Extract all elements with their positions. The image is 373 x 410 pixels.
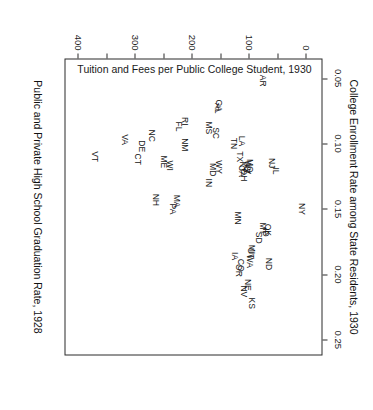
scatter-point-label: DE [137,140,146,152]
rotated-figure-stage: College Enrollment Rate among State Resi… [0,0,373,410]
scatter-point-label: NC [147,129,156,141]
scatter-point-label: AR [257,74,266,86]
scatter-point-label: NJ [267,157,276,167]
scatter-point-label: VA [120,134,129,145]
scatter-point-label: MS [203,121,212,134]
scatter-point-label: TX [235,151,244,162]
y-tick-label: 400 [73,30,84,50]
plot-panel [64,58,322,355]
x-tick-label: 0.05 [332,68,343,87]
scatter-point-label: CA [236,165,245,177]
y-tick-mark [77,53,78,58]
scatter-point-label: NV [239,285,248,297]
x-axis-title: Public and Private High School Graduatio… [31,58,43,355]
y-tick-mark [248,53,249,58]
scatter-point-label: IA [229,252,238,260]
scatter-point-label: ME [158,155,167,168]
x-tick-mark [322,339,327,340]
scatter-point-label: IN [203,178,212,187]
y-tick-mark [163,53,164,58]
scatter-point-label: SD [254,231,263,243]
y-tick-mark [134,53,135,58]
scatter-point-label: FL [174,121,183,131]
y-axis-title: Tuition and Fees per Public College Stud… [65,62,323,74]
scatter-point-label: VT [90,151,99,162]
scatter-point-label: AL [212,103,221,113]
x-tick-mark [322,274,327,275]
scatter-point-label: NM [179,138,188,151]
y-tick-label: 100 [244,30,255,50]
y-tick-mark [277,53,278,58]
x-tick-label: 0.15 [332,199,343,218]
scatter-point-label: MN [232,211,241,224]
scatter-point-label: MD [207,163,216,176]
x-tick-mark [322,78,327,79]
x-tick-label: 0.10 [332,134,343,153]
scatter-point-label: KS [247,297,256,308]
x-tick-mark [322,143,327,144]
chart-title: College Enrollment Rate among State Resi… [347,58,359,355]
scatter-point-label: TN [229,137,238,148]
y-tick-mark [220,53,221,58]
x-tick-label: 0.25 [332,330,343,349]
y-tick-mark [305,53,306,58]
scatter-point-label: NH [151,193,160,205]
y-tick-label: 200 [187,30,198,50]
scatter-point-label: OR [234,264,243,277]
scatter-point-label: PA [167,203,176,214]
scatter-point-label: NY [297,203,306,215]
scatter-point-label: CT [133,153,142,164]
y-tick-mark [191,53,192,58]
y-tick-label: 300 [130,30,141,50]
x-tick-mark [322,208,327,209]
scatter-point-label: ND [264,257,273,269]
x-tick-label: 0.20 [332,265,343,284]
y-tick-label: 0 [301,30,312,50]
y-tick-mark [106,53,107,58]
